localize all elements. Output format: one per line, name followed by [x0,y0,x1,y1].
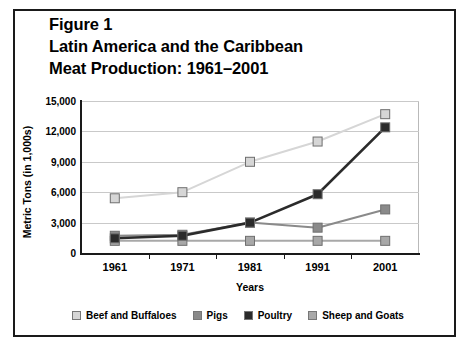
data-point-marker [178,231,187,240]
data-point-marker [313,137,322,146]
figure-container: Figure 1 Latin America and the Caribbean… [0,0,470,348]
legend-item[interactable]: Beef and Buffaloes [72,310,177,321]
series-layer [0,0,470,348]
legend-label: Poultry [258,310,292,321]
legend-swatch-icon [193,311,202,320]
data-point-marker [381,236,390,245]
data-point-marker [178,188,187,197]
legend-swatch-icon [72,311,81,320]
data-point-marker [381,123,390,132]
data-point-marker [110,194,119,203]
series-beef-and-buffaloes [110,110,389,203]
legend-item[interactable]: Poultry [244,310,292,321]
data-point-marker [246,236,255,245]
data-point-marker [381,110,390,119]
series-poultry [110,123,389,243]
data-point-marker [110,234,119,243]
legend-label: Beef and Buffaloes [86,310,177,321]
legend-item[interactable]: Pigs [193,310,228,321]
data-point-marker [246,157,255,166]
legend-label: Pigs [207,310,228,321]
data-point-marker [313,223,322,232]
series-line [115,114,385,198]
data-point-marker [246,218,255,227]
legend-swatch-icon [244,311,253,320]
data-point-marker [381,205,390,214]
legend-label: Sheep and Goats [322,310,404,321]
chart-plot-wrapper: 03,0006,0009,00012,00015,000 19611971198… [0,0,470,348]
data-point-marker [313,236,322,245]
legend-item[interactable]: Sheep and Goats [308,310,404,321]
chart-legend: Beef and BuffaloesPigsPoultrySheep and G… [72,307,444,323]
legend-swatch-icon [308,311,317,320]
data-point-marker [313,190,322,199]
